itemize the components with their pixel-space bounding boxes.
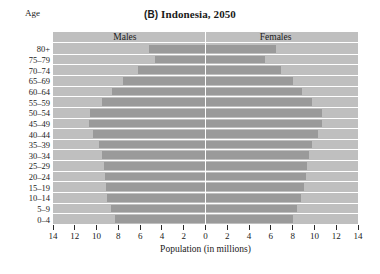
bar-female [206,45,277,53]
x-axis-tick-label: 6 [269,231,274,242]
y-axis-tick-label: 0–4 [37,215,50,225]
y-axis-tick-label: 45–49 [29,119,50,129]
plot-area: Males Females [53,32,358,225]
x-axis-tick [358,225,359,230]
bar-female [206,130,318,138]
x-axis-tick-label: 10 [92,231,101,242]
bar-male [112,88,206,96]
bar-male [107,194,205,202]
x-axis-title: Population (in millions) [53,244,358,254]
y-axis-tick-label: 40–44 [29,130,50,140]
bar-male [102,151,205,159]
bar-male [111,205,206,213]
x-axis-tick [140,225,141,230]
y-axis-tick-label: 80+ [37,44,50,54]
chart-title: (B) Indonesia, 2050 [0,8,380,20]
y-axis-tick-label: 25–29 [29,161,50,171]
bar-male [106,183,205,191]
x-axis-tick [292,225,293,230]
x-axis-tick [118,225,119,230]
y-axis-tick-label: 20–24 [29,172,50,182]
bar-male [104,162,205,170]
bar-female [206,194,302,202]
x-axis-tick [336,225,337,230]
x-axis-tick [249,225,250,230]
bar-female [206,88,303,96]
x-axis-tick-label: 8 [290,231,295,242]
x-axis-tick-label: 2 [181,231,186,242]
x-axis-tick-label: 0 [203,231,208,242]
bar-male [155,56,205,64]
bar-female [206,205,298,213]
x-axis-tick-label: 14 [49,231,58,242]
bar-female [206,141,313,149]
x-axis-tick [205,225,206,230]
center-axis-line [205,32,206,225]
y-axis-tick-label: 65–69 [29,76,50,86]
x-axis-tick [53,225,54,230]
bar-male [149,45,206,53]
x-axis-tick [270,225,271,230]
bar-female [206,151,309,159]
chart-title-text: Indonesia, 2050 [161,8,236,20]
bar-female [206,98,313,106]
bar-male [90,109,205,117]
bar-male [123,77,206,85]
y-axis-tick-label: 30–34 [29,151,50,161]
x-axis-tick [161,225,162,230]
bar-female [206,215,293,223]
x-axis-tick [183,225,184,230]
y-axis-tick-label: 5–9 [37,204,50,214]
y-axis-tick-label: 75–79 [29,55,50,65]
x-axis-tick-label: 14 [354,231,363,242]
x-axis-tick-label: 10 [310,231,319,242]
legend-label-females: Females [260,32,292,43]
bar-female [206,120,323,128]
bar-female [206,56,266,64]
bar-male [138,66,206,74]
y-axis-tick-labels: 80+75–7970–7465–6960–6455–5950–5445–4940… [0,32,50,225]
x-axis-tick [227,225,228,230]
bar-male [105,173,205,181]
y-axis-tick-label: 55–59 [29,98,50,108]
panel-tag: (B) [144,9,158,20]
y-axis-tick-label: 60–64 [29,87,50,97]
bar-female [206,66,281,74]
x-axis-tick-label: 12 [70,231,79,242]
bar-female [206,77,293,85]
y-axis-tick-label: 10–14 [29,193,50,203]
bar-male [102,98,205,106]
x-axis-tick [314,225,315,230]
x-axis-tick-label: 8 [116,231,121,242]
bar-male [93,130,205,138]
y-axis-tick-label: 15–19 [29,183,50,193]
bar-male [115,215,205,223]
y-axis-tick-label: 35–39 [29,140,50,150]
x-axis-tick-label: 2 [225,231,230,242]
population-pyramid-figure: Age (B) Indonesia, 2050 80+75–7970–7465–… [0,0,380,274]
y-axis-tick-label: 70–74 [29,66,50,76]
bar-male [89,120,206,128]
bar-female [206,173,306,181]
x-axis-tick-label: 4 [160,231,165,242]
x-axis-tick [96,225,97,230]
bar-female [206,183,304,191]
x-axis-tick-label: 6 [138,231,143,242]
x-axis-tick [74,225,75,230]
x-axis-tick-label: 4 [247,231,252,242]
legend-label-males: Males [113,32,136,43]
bar-male [99,141,206,149]
x-axis-tick-labels: 141210864202468101214 [53,231,358,243]
x-axis-tick-label: 12 [332,231,341,242]
y-axis-tick-label: 50–54 [29,108,50,118]
bar-female [206,109,323,117]
bar-female [206,162,307,170]
